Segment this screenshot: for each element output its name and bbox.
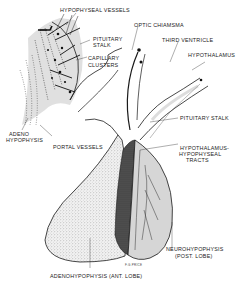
label-pituitary-stalk-inset-line2: STALK <box>93 42 111 48</box>
label-hypophyseal-vessels: HYPOPHYSEAL VESSELS <box>60 7 130 13</box>
anterior-lobe <box>45 135 128 262</box>
label-tracts-line3: TRACTS <box>186 157 209 163</box>
label-hypothalamus: HYPOTHALAMUS <box>188 52 235 58</box>
label-third-ventricle: THIRD VENTRICLE <box>162 37 213 43</box>
label-neurohypophysis-line1: NEUROHYPOPHYSIS <box>166 246 224 252</box>
label-adeno-hypophysis-line2: HYPOPHYSIS <box>6 137 43 143</box>
artist-signature: F.G.PRICE <box>125 263 142 267</box>
label-optic-chiasma: OPTIC CHIAMSMA <box>134 22 184 28</box>
label-adenohypophysis: ADENOHYPOPHYSIS (ANT. LOBE) <box>50 273 142 279</box>
label-capillary-clusters-line1: CAPILLARY <box>88 55 119 61</box>
label-pituitary-stalk: PITUITARY STALK <box>180 115 229 121</box>
label-neurohypophysis-line2: (POST. LOBE) <box>175 253 212 259</box>
inset-portal-system <box>20 14 83 125</box>
label-capillary-clusters-line2: CLUSTERS <box>88 62 118 68</box>
pituitary-gland <box>45 119 173 262</box>
posterior-lobe <box>128 140 173 259</box>
label-portal-vessels: PORTAL VESSELS <box>53 144 103 150</box>
